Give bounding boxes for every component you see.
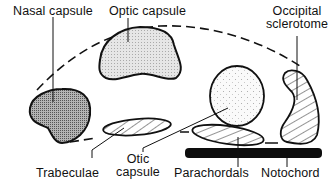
label-otic-capsule: Otic capsule — [108, 153, 168, 179]
diagram-canvas: Nasal capsule Optic capsule Occipital sc… — [0, 0, 333, 188]
label-occipital-sclerotome: Occipital sclerotome — [262, 5, 332, 31]
label-nasal-capsule: Nasal capsule — [13, 5, 93, 18]
label-trabeculae: Trabeculae — [36, 167, 99, 180]
occipital-sclerotome-shape — [281, 70, 319, 143]
otic-capsule-shape — [210, 66, 264, 126]
notochord-shape — [185, 148, 322, 158]
nasal-capsule-shape — [30, 89, 90, 143]
label-parachordals: Parachordals — [174, 167, 249, 180]
optic-capsule-shape — [99, 27, 180, 79]
label-optic-capsule: Optic capsule — [109, 5, 186, 18]
label-occipital-line2: sclerotome — [262, 18, 332, 31]
label-otic-line2: capsule — [108, 166, 168, 179]
parachordals-shape — [191, 121, 265, 149]
label-notochord: Notochord — [261, 167, 320, 180]
trabeculae-shape — [102, 116, 171, 138]
